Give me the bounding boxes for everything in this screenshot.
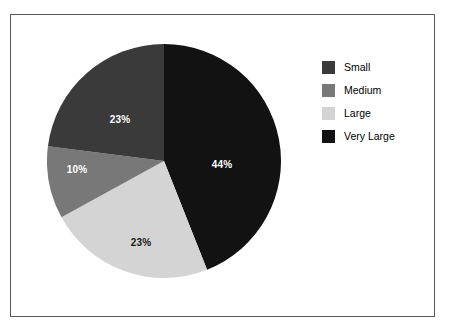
legend-item-large[interactable]: Large bbox=[322, 103, 422, 123]
legend-swatch-small bbox=[322, 61, 335, 74]
legend-label-very-large: Very Large bbox=[344, 131, 395, 142]
legend-item-medium[interactable]: Medium bbox=[322, 80, 422, 100]
legend: Small Medium Large Very Large bbox=[322, 57, 422, 149]
legend-label-small: Small bbox=[344, 62, 370, 73]
legend-swatch-very-large bbox=[322, 130, 335, 143]
legend-label-medium: Medium bbox=[344, 85, 381, 96]
legend-item-very-large[interactable]: Very Large bbox=[322, 126, 422, 146]
legend-label-large: Large bbox=[344, 108, 371, 119]
legend-swatch-large bbox=[322, 107, 335, 120]
legend-item-small[interactable]: Small bbox=[322, 57, 422, 77]
legend-swatch-medium bbox=[322, 84, 335, 97]
